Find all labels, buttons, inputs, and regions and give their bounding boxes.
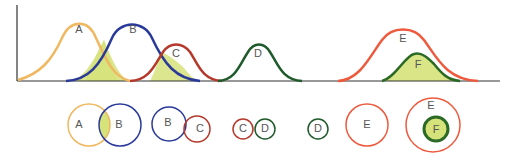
venn-label-d2: D (314, 122, 322, 134)
venn-label-c: C (196, 122, 204, 134)
venn-label-e: E (363, 118, 370, 130)
venn-label-d: D (261, 122, 269, 134)
venn-label-b2: B (164, 116, 171, 128)
curve-label-f: F (415, 58, 422, 70)
venn-label-e2: E (427, 99, 434, 111)
venn-label-b: B (115, 118, 122, 130)
curve-label-e: E (399, 32, 406, 44)
curve-label-b: B (129, 23, 136, 35)
curve-label-a: A (75, 23, 83, 35)
venn-label-a: A (75, 118, 83, 130)
venn-label-c2: C (239, 122, 247, 134)
curve-label-c: C (172, 47, 180, 59)
venn-label-f: F (433, 123, 440, 135)
curve-label-d: D (254, 47, 262, 59)
distribution-overlap-diagram: A B C D E F A B B C C D D E E F (0, 0, 509, 160)
